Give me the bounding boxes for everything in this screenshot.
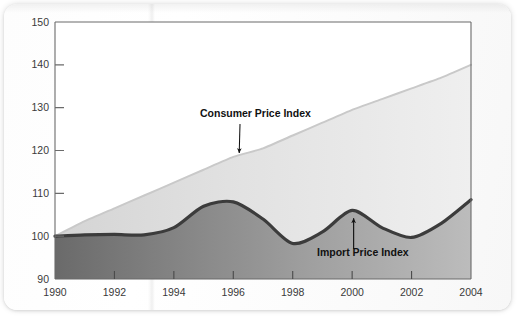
y-tick-label: 90: [37, 273, 49, 285]
annotation-label-import-price-index: Import Price Index: [317, 246, 409, 258]
y-tick-label: 150: [31, 16, 49, 28]
x-tick-label: 1996: [222, 286, 246, 298]
x-tick-label: 2002: [400, 286, 424, 298]
x-tick-label: 2000: [340, 286, 364, 298]
annotation-label-consumer-price-index: Consumer Price Index: [200, 107, 311, 119]
y-tick-label: 100: [31, 230, 49, 242]
x-axis-tick-labels: 19901992199419961998200020022004: [43, 286, 483, 298]
y-tick-label: 110: [32, 187, 49, 199]
y-tick-label: 120: [31, 144, 49, 156]
x-tick-label: 1992: [103, 286, 127, 298]
price-index-area-chart: 90100110120130140150 1990199219941996199…: [4, 4, 511, 310]
y-tick-label: 130: [31, 101, 49, 113]
x-tick-label: 2004: [459, 286, 483, 298]
y-axis-tick-labels: 90100110120130140150: [31, 16, 49, 285]
x-tick-label: 1994: [162, 286, 186, 298]
x-tick-label: 1998: [281, 286, 305, 298]
x-tick-label: 1990: [43, 286, 67, 298]
scanned-page-card: 90100110120130140150 1990199219941996199…: [4, 4, 511, 310]
y-tick-label: 140: [31, 58, 49, 70]
